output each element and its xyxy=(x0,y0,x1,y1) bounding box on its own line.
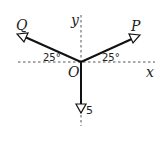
arrowhead-weight-icon xyxy=(76,104,86,113)
label-y-axis: y xyxy=(70,12,80,28)
label-q: Q xyxy=(16,17,28,33)
label-weight: 5 xyxy=(86,104,93,117)
arrowhead-p-icon xyxy=(129,34,140,43)
force-diagram: Q P y x O 25° 25° 5 xyxy=(0,0,165,145)
label-origin: O xyxy=(68,64,80,80)
label-angle-q: 25° xyxy=(43,52,61,63)
label-angle-p: 25° xyxy=(102,52,120,63)
arrowhead-q-icon xyxy=(17,33,28,42)
label-p: P xyxy=(130,18,141,34)
label-x-axis: x xyxy=(146,64,154,80)
